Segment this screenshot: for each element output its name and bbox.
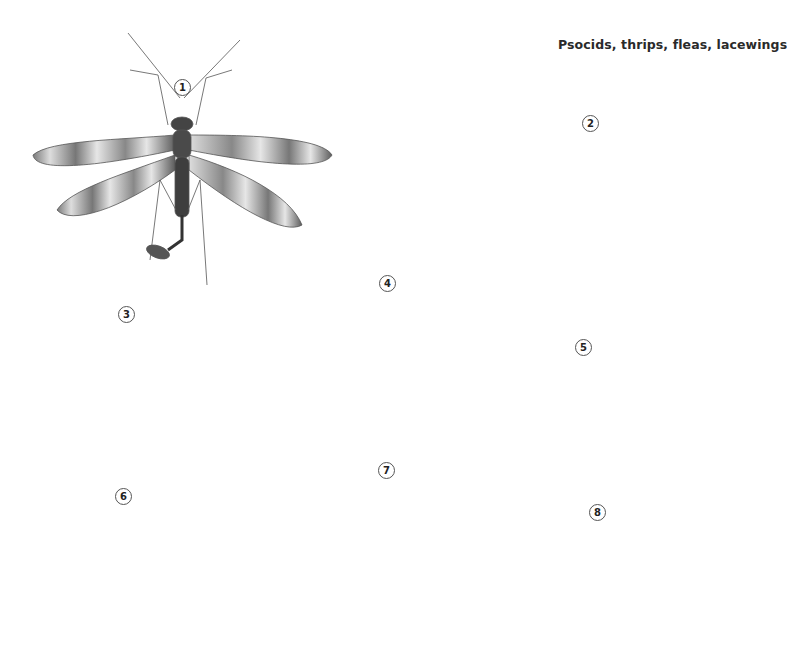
specimen-number-2: 2 [582, 115, 599, 132]
specimen-number-4: 4 [379, 275, 396, 292]
specimen-number-6: 6 [115, 488, 132, 505]
specimen-1-scorpionfly [33, 33, 332, 285]
specimen-number-3: 3 [118, 306, 135, 323]
specimen-number-5: 5 [575, 339, 592, 356]
specimen-number-1: 1 [174, 79, 191, 96]
specimen-number-7: 7 [378, 462, 395, 479]
specimen-number-8: 8 [589, 504, 606, 521]
